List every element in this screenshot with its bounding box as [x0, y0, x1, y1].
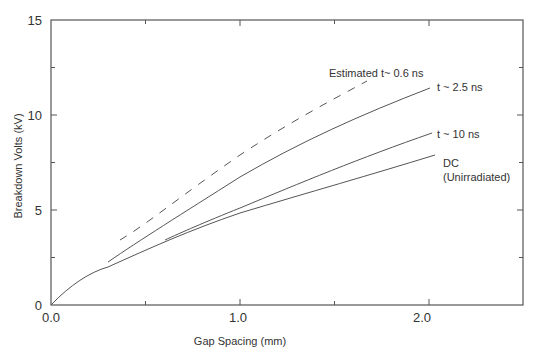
label-unirradiated: (Unirradiated) — [443, 171, 510, 183]
x-tick-label-0: 0.0 — [42, 310, 60, 325]
label-dc: DC — [443, 157, 459, 169]
series-dc-unirradiated — [51, 155, 435, 305]
breakdown-voltage-chart: 0.0 1.0 2.0 0 5 10 15 Gap Spacing (mm) B… — [0, 0, 533, 354]
y-axis-title: Breakdown Volts (kV) — [12, 113, 24, 218]
x-axis-title: Gap Spacing (mm) — [194, 335, 286, 347]
label-10ns: t ~ 10 ns — [437, 128, 480, 140]
x-tick-label-2: 2.0 — [413, 310, 431, 325]
y-tick-label-15: 15 — [28, 13, 42, 28]
x-tick-label-1: 1.0 — [229, 310, 247, 325]
y-tick-label-10: 10 — [28, 108, 42, 123]
x-axis-ticks — [146, 20, 430, 305]
label-2-5ns: t ~ 2.5 ns — [437, 81, 483, 93]
y-tick-label-0: 0 — [35, 298, 42, 313]
series-2-5ns — [108, 88, 430, 262]
series-estimated-0-6ns — [120, 81, 367, 240]
y-tick-label-5: 5 — [35, 203, 42, 218]
label-estimated-0-6ns: Estimated t~ 0.6 ns — [329, 67, 424, 79]
series-10ns — [165, 133, 432, 240]
